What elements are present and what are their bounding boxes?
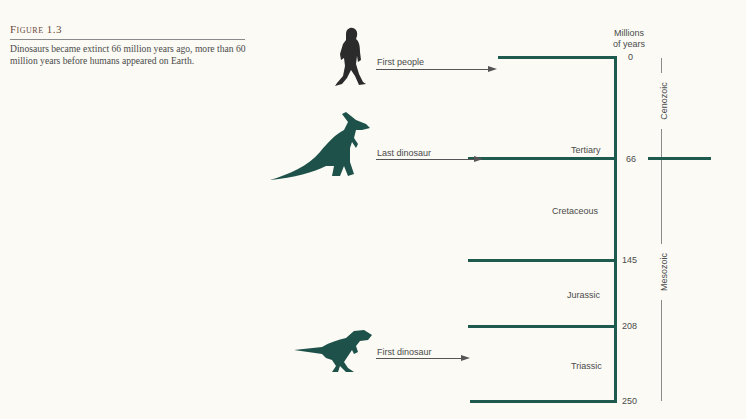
caption-divider (10, 39, 245, 40)
tick-66: 66 (626, 154, 636, 164)
axis-title-line2: of years (613, 39, 645, 50)
tick-0: 0 (628, 52, 633, 62)
first-people-arrow (376, 69, 490, 70)
event-last-dinosaur-label: Last dinosaur (377, 148, 431, 158)
period-triassic: Triassic (571, 361, 602, 371)
arrow-head-icon (488, 66, 497, 72)
tick-145: 145 (622, 255, 637, 265)
boundary-line-208 (468, 325, 617, 328)
axis-title-line1: Millions (613, 28, 645, 39)
tick-208: 208 (622, 321, 637, 331)
boundary-line-250 (470, 400, 617, 403)
event-first-dinosaur-label: First dinosaur (377, 347, 432, 357)
period-jurassic: Jurassic (567, 290, 600, 300)
era-mesozoic: Mesozoic (659, 244, 669, 300)
first-dinosaur-arrow (376, 358, 463, 359)
arrow-head-icon (474, 156, 483, 162)
last-dinosaur-arrow (376, 159, 476, 160)
boundary-line-0 (498, 56, 617, 59)
boundary-line-145 (468, 259, 617, 262)
theropod-silhouette-icon (294, 328, 376, 374)
time-axis (614, 56, 617, 403)
human-silhouette-icon (333, 26, 369, 88)
tick-250: 250 (622, 396, 637, 406)
era-boundary-66 (648, 157, 711, 160)
figure-caption: Dinosaurs became extinct 66 million year… (10, 43, 250, 67)
boundary-line-66 (468, 157, 617, 160)
axis-title: Millions of years (613, 28, 645, 50)
period-tertiary: Tertiary (571, 145, 601, 155)
arrow-head-icon (461, 355, 470, 361)
event-first-people-label: First people (377, 57, 424, 67)
figure-title: Figure 1.3 (10, 23, 62, 35)
period-cretaceous: Cretaceous (552, 206, 598, 216)
hadrosaur-silhouette-icon (270, 108, 374, 182)
era-cenozoic: Cenozoic (659, 73, 669, 129)
